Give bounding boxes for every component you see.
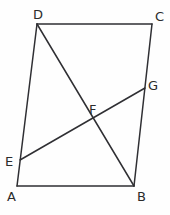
vertex-label-d: D xyxy=(33,8,43,21)
side-DA xyxy=(17,24,37,186)
geometry-figure: D C G F E A B xyxy=(0,0,170,215)
vertex-label-a: A xyxy=(7,190,16,203)
vertex-label-f: F xyxy=(89,103,96,116)
vertex-label-e: E xyxy=(5,155,13,168)
side-BC xyxy=(134,24,152,186)
diagonal-DB xyxy=(37,24,134,186)
vertex-label-c: C xyxy=(155,10,164,23)
segment-layer xyxy=(17,24,152,186)
geometry-canvas xyxy=(0,0,170,215)
vertex-label-g: G xyxy=(148,79,158,92)
vertex-label-b: B xyxy=(137,190,146,203)
